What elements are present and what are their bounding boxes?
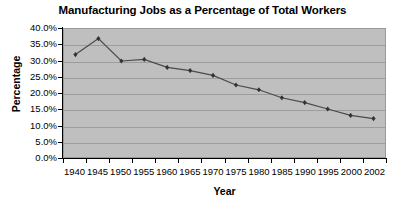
y-axis-tick <box>58 77 63 78</box>
x-axis-tick-label: 1965 <box>179 166 200 177</box>
x-axis-tick-label: 1950 <box>110 166 131 177</box>
plot-area <box>63 28 386 158</box>
y-axis-tick-label: 40.0% <box>5 22 57 33</box>
x-axis-tick <box>201 159 202 163</box>
x-axis-tick <box>294 159 295 163</box>
data-point-marker <box>280 95 284 100</box>
x-axis-tick-label: 1940 <box>64 166 85 177</box>
data-point-marker <box>211 73 215 78</box>
x-axis-tick-label: 1975 <box>225 166 246 177</box>
y-axis-title: Percentage <box>10 44 22 124</box>
y-axis-tick <box>58 142 63 143</box>
series-markers-group <box>73 36 375 121</box>
x-axis-tick-label: 1955 <box>133 166 154 177</box>
x-axis-tick <box>86 159 87 163</box>
y-axis-tick <box>58 28 63 29</box>
data-point-marker <box>142 57 146 62</box>
x-axis-tick <box>109 159 110 163</box>
x-axis-tick-label: 1995 <box>318 166 339 177</box>
x-axis-tick-label: 1960 <box>156 166 177 177</box>
chart-title: Manufacturing Jobs as a Percentage of To… <box>0 4 405 16</box>
x-axis-tick <box>317 159 318 163</box>
x-axis-tick <box>271 159 272 163</box>
x-axis-tick <box>248 159 249 163</box>
data-point-marker <box>234 82 238 87</box>
x-axis-title: Year <box>63 185 386 197</box>
data-point-marker <box>73 52 77 57</box>
y-axis-tick <box>58 44 63 45</box>
x-axis-tick-label: 1980 <box>249 166 270 177</box>
y-axis-tick <box>58 126 63 127</box>
series-polyline <box>75 39 373 119</box>
x-axis-tick-label: 1945 <box>87 166 108 177</box>
series-line-chart <box>64 29 385 157</box>
y-axis-tick-label: 0.0% <box>5 152 57 163</box>
chart-figure: Manufacturing Jobs as a Percentage of To… <box>0 0 405 206</box>
x-axis-tick <box>340 159 341 163</box>
data-point-marker <box>188 68 192 73</box>
x-axis-tick <box>63 159 64 163</box>
data-point-marker <box>349 113 353 118</box>
x-axis-tick <box>363 159 364 163</box>
y-axis-tick <box>58 109 63 110</box>
x-axis-tick <box>132 159 133 163</box>
x-axis-tick <box>225 159 226 163</box>
x-axis-tick <box>178 159 179 163</box>
x-axis-tick-label: 1970 <box>202 166 223 177</box>
x-axis-tick-label: 1990 <box>295 166 316 177</box>
x-axis-tick-label: 2000 <box>341 166 362 177</box>
y-axis-tick <box>58 93 63 94</box>
y-axis-tick <box>58 61 63 62</box>
data-point-marker <box>257 87 261 92</box>
y-axis-tick-label: 5.0% <box>5 136 57 147</box>
data-point-marker <box>326 106 330 111</box>
x-axis-tick <box>386 159 387 163</box>
x-axis-tick-label: 2002 <box>364 166 385 177</box>
x-axis-tick <box>155 159 156 163</box>
data-point-marker <box>303 100 307 105</box>
x-axis-tick-label: 1985 <box>272 166 293 177</box>
data-point-marker <box>165 65 169 70</box>
y-axis-tick-labels: 40.0%35.0%30.0%25.0%20.0%15.0%10.0%5.0%0… <box>0 0 57 206</box>
data-point-marker <box>371 116 375 121</box>
